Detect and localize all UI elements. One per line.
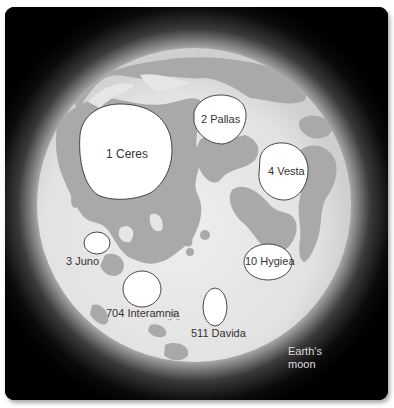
moon-label-line-2: moon [288,358,322,371]
label-pallas: 2 Pallas [201,114,240,125]
moon-diagram [0,0,394,408]
moon-label-line-1: Earth's [288,345,322,358]
asteroid-juno [84,232,110,254]
asteroid-interamnia [123,271,161,307]
earths-moon-label: Earth's moon [288,345,322,371]
label-juno: 3 Juno [66,256,99,267]
label-davida: 511 Davida [191,328,246,339]
asteroid-davida [203,288,227,326]
label-ceres: 1 Ceres [106,148,148,160]
label-vesta: 4 Vesta [268,166,305,177]
label-hygiea: 10 Hygiea [245,256,295,267]
label-interamnia: 704 Interamnia [106,308,179,319]
